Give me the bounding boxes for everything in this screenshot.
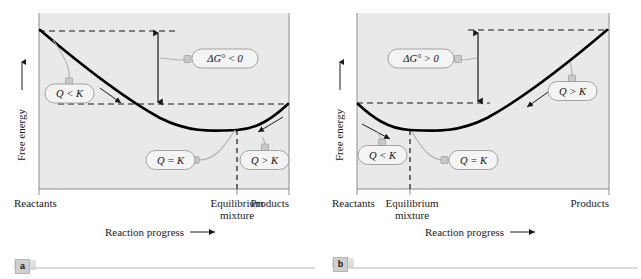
yaxis-title-b: Free energy	[333, 108, 345, 161]
callout-q-eq-k-a[interactable]: Q = K	[146, 151, 199, 170]
panel-a-chart: ΔG° < 0 Q < K Q = K Q > K	[0, 0, 320, 250]
callout-label-q-eq-k-b: Q = K	[460, 155, 488, 166]
panel-a: ΔG° < 0 Q < K Q = K Q > K	[0, 0, 320, 279]
xtick-label-equilibrium-b: Equilibrium	[385, 197, 439, 209]
callout-label-q-eq-k-a: Q = K	[157, 155, 185, 166]
callout-nub-q-lt-k-b	[379, 139, 386, 146]
footer-rule-a	[30, 267, 315, 269]
xaxis-title-a: Reaction progress	[105, 226, 184, 238]
panel-badge-a: a	[15, 259, 30, 274]
xtick-label-products-b: Products	[571, 197, 610, 209]
xaxis-title-b: Reaction progress	[425, 226, 504, 238]
callout-label-q-lt-k-b: Q < K	[369, 150, 397, 161]
figure-root: ΔG° < 0 Q < K Q = K Q > K	[0, 0, 641, 279]
xtick-label-mixture-b: mixture	[395, 209, 429, 221]
panel-b-chart: ΔG° > 0 Q < K Q = K Q > K	[320, 0, 641, 250]
panel-badge-b: b	[333, 257, 348, 272]
callout-nub-delta-g-b	[455, 56, 462, 63]
xtick-label-reactants-b: Reactants	[332, 197, 375, 209]
callout-label-q-gt-k-b: Q > K	[559, 86, 587, 97]
footer-rule-b	[348, 267, 638, 269]
callout-label-q-lt-k-a: Q < K	[56, 88, 84, 99]
callout-nub-q-eq-k-b	[441, 157, 448, 164]
callout-label-q-gt-k-a: Q > K	[251, 155, 279, 166]
panel-b: ΔG° > 0 Q < K Q = K Q > K	[320, 0, 640, 279]
callout-label-delta-g-b: ΔG° > 0	[402, 53, 439, 64]
xtick-label-reactants-a: Reactants	[14, 197, 57, 209]
callout-nub-q-gt-k-a	[262, 144, 269, 151]
xtick-label-mixture-a: mixture	[220, 209, 254, 221]
callout-nub-delta-g-a	[184, 56, 191, 63]
callout-nub-q-gt-k-b	[569, 75, 576, 82]
yaxis-title-a: Free energy	[15, 108, 27, 161]
callout-delta-g-a[interactable]: ΔG° < 0	[184, 49, 258, 68]
callout-label-delta-g-a: ΔG° < 0	[206, 53, 243, 64]
xtick-label-products-a: Products	[251, 197, 290, 209]
callout-delta-g-b[interactable]: ΔG° > 0	[388, 49, 462, 68]
